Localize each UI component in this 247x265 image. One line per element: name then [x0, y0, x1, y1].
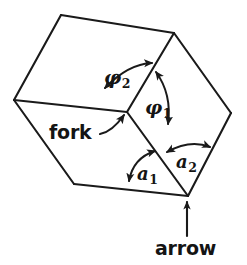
cube-edge-bottom-left: [74, 184, 188, 196]
phi2-subscript: 2: [122, 76, 131, 91]
fork-label: fork: [49, 123, 92, 142]
a2-label: a2: [176, 153, 197, 175]
phi1-subscript: 1: [163, 106, 172, 121]
phi1-symbol: φ: [145, 96, 162, 118]
a2-subscript: 2: [188, 160, 197, 175]
cube-edge-top-back: [61, 15, 174, 33]
cube-outline: [14, 15, 231, 196]
a1-subscript: 1: [149, 172, 158, 187]
phi2-label: φ2: [104, 68, 130, 91]
figure-canvas: φ2 φ1 a1 a2 fork arrow: [0, 0, 247, 265]
phi1-label: φ1: [145, 98, 171, 121]
fork-pointer-arrow: [100, 115, 124, 134]
arrow-label: arrow: [155, 239, 216, 258]
a2-symbol: a: [176, 151, 188, 172]
phi2-symbol: φ: [104, 66, 121, 88]
cube-edge-top-face-left: [14, 100, 127, 112]
cube-edge-upper-left: [14, 15, 61, 100]
cube-diagram-svg: [0, 0, 247, 265]
a1-label: a1: [137, 165, 158, 187]
cube-edge-upper-right: [174, 33, 231, 113]
a2-angle-arc: [167, 144, 210, 152]
a1-symbol: a: [137, 163, 149, 184]
